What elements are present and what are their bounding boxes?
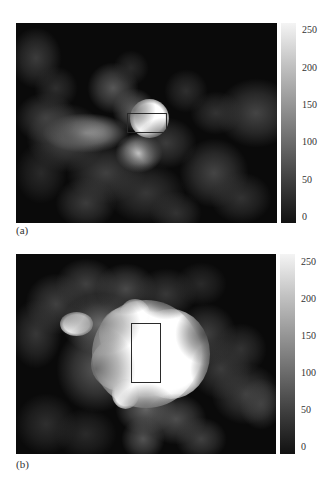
intensity-blob <box>179 138 249 208</box>
intensity-blob <box>95 263 157 316</box>
intensity-blob <box>145 393 207 446</box>
intensity-blob <box>16 92 77 145</box>
colorbar-a-tick-250: 250 <box>302 25 317 35</box>
colorbar-b-tick-100: 100 <box>301 368 316 378</box>
intensity-blob <box>210 172 272 223</box>
intensity-blob <box>34 66 78 110</box>
intensity-blob <box>115 133 163 173</box>
intensity-blob <box>16 393 77 454</box>
roi-rectangle <box>131 323 161 383</box>
intensity-blob <box>135 268 197 321</box>
intensity-blob <box>16 27 62 89</box>
colorbar-b-tick-250: 250 <box>301 257 316 267</box>
intensity-blob <box>121 417 165 454</box>
colorbar-a-tick-150: 150 <box>302 100 317 110</box>
intensity-blob <box>60 312 93 336</box>
intensity-blob <box>87 62 140 115</box>
colorbar-b-tick-0: 0 <box>301 442 306 452</box>
intensity-blob <box>239 378 276 431</box>
intensity-blob <box>115 383 177 436</box>
intensity-blob <box>25 273 87 335</box>
heatmap-panel-b <box>16 254 276 454</box>
intensity-blob <box>42 113 130 153</box>
intensity-blob <box>16 142 67 204</box>
intensity-blob <box>150 191 203 223</box>
intensity-blob <box>164 69 208 113</box>
intensity-blob <box>112 379 139 409</box>
colorbar-b <box>280 254 295 454</box>
roi-rectangle <box>127 113 167 133</box>
intensity-blob <box>175 417 228 454</box>
intensity-blob <box>175 262 228 306</box>
colorbar-a-tick-50: 50 <box>302 175 312 185</box>
intensity-blob <box>190 91 243 135</box>
colorbar-a-tick-0: 0 <box>302 212 307 222</box>
intensity-blob <box>16 299 62 369</box>
intensity-blob <box>55 258 117 311</box>
panel-label-b: (b) <box>16 458 29 470</box>
intensity-blob <box>216 78 277 148</box>
colorbar-b-tick-200: 200 <box>301 294 316 304</box>
intensity-blob <box>175 303 237 365</box>
colorbar-b-tick-150: 150 <box>301 331 316 341</box>
intensity-blob <box>56 325 135 413</box>
intensity-blob <box>113 50 148 85</box>
colorbar-a <box>281 23 296 223</box>
intensity-blob <box>26 103 105 173</box>
intensity-blob <box>215 323 268 376</box>
intensity-blob <box>211 363 276 425</box>
colorbar-b-tick-50: 50 <box>301 405 311 415</box>
colorbar-a-tick-100: 100 <box>302 137 317 147</box>
intensity-blob <box>55 408 117 454</box>
intensity-blob <box>61 293 140 355</box>
panel-label-a: (a) <box>16 224 28 236</box>
heatmap-panel-a <box>16 23 277 223</box>
intensity-blob <box>106 162 185 223</box>
colorbar-a-tick-200: 200 <box>302 63 317 73</box>
intensity-blob <box>190 338 252 400</box>
intensity-blob <box>55 177 117 223</box>
intensity-blob <box>66 142 145 204</box>
